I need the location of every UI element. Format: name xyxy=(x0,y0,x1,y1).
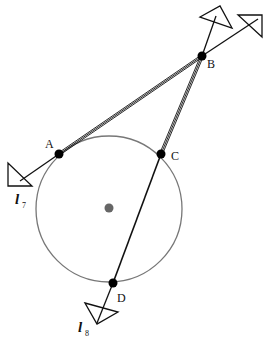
label-l8-subscript: 8 xyxy=(85,329,89,338)
point-D xyxy=(109,279,118,288)
label-l8: l xyxy=(78,319,83,335)
label-l7: l xyxy=(15,191,20,207)
line-l7-end-marker-icon xyxy=(238,15,262,37)
point-B xyxy=(198,52,207,61)
point-C xyxy=(157,150,166,159)
label-B: B xyxy=(207,57,215,71)
label-C: C xyxy=(171,149,179,163)
label-D: D xyxy=(117,291,126,305)
circle-center-point xyxy=(105,204,114,213)
geometry-diagram: A B C D l 7 l 8 xyxy=(0,0,271,343)
point-A xyxy=(55,150,64,159)
line-l8 xyxy=(85,6,232,324)
label-l7-subscript: 7 xyxy=(22,201,26,210)
label-A: A xyxy=(45,137,54,151)
line-l7 xyxy=(8,15,262,186)
